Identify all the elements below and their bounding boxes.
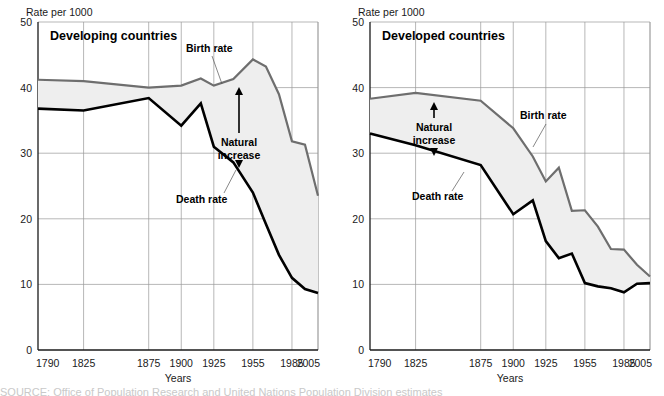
death-rate-leader-line (452, 172, 464, 191)
y-axis-caption: Rate per 1000 (26, 6, 93, 18)
panel-title: Developing countries (50, 29, 177, 43)
y-tick-label: 10 (20, 278, 32, 290)
x-tick-label: 1900 (502, 357, 526, 369)
natural-increase-label-line: increase (218, 149, 261, 161)
x-tick-label: 2005 (297, 357, 321, 369)
y-axis-caption: Rate per 1000 (358, 6, 425, 18)
x-tick-label: 1925 (534, 357, 558, 369)
x-tick-label: 1875 (137, 357, 161, 369)
natural-increase-band (38, 59, 318, 293)
panel-title: Developed countries (382, 29, 505, 43)
y-tick-label: 30 (20, 147, 32, 159)
death-rate-label: Death rate (176, 193, 228, 205)
y-tick-label: 30 (352, 147, 364, 159)
natural-increase-label: Naturalincrease (218, 136, 261, 161)
natural-increase-label-line: Natural (416, 121, 452, 133)
x-tick-label: 1875 (469, 357, 493, 369)
birth-rate-leader-line (533, 124, 546, 147)
y-tick-label: 20 (20, 213, 32, 225)
natural-increase-label-line: increase (413, 134, 456, 146)
y-tick-label: 40 (20, 82, 32, 94)
x-tick-label: 1825 (404, 357, 428, 369)
chart-panel-developing: Rate per 1000010203040501790182518751900… (0, 0, 332, 396)
clipped-source-caption-text: SOURCE: Office of Population Research an… (0, 388, 664, 396)
y-tick-label: 0 (358, 344, 364, 356)
x-tick-label: 1790 (36, 357, 60, 369)
x-tick-label: 1955 (241, 357, 265, 369)
x-tick-label: 1955 (573, 357, 597, 369)
y-tick-label: 50 (352, 16, 364, 28)
birth-rate-label: Birth rate (186, 42, 233, 54)
developing-countries-chart: Rate per 1000010203040501790182518751900… (0, 0, 332, 396)
x-tick-label: 1790 (368, 357, 392, 369)
x-tick-label: 1925 (202, 357, 226, 369)
y-tick-label: 20 (352, 213, 364, 225)
y-tick-label: 10 (352, 278, 364, 290)
y-tick-label: 40 (352, 82, 364, 94)
natural-increase-label-line: Natural (221, 136, 257, 148)
chart-panel-developed: Rate per 1000010203040501790182518751900… (332, 0, 664, 396)
x-tick-label: 2005 (629, 357, 653, 369)
x-axis-caption: Years (497, 372, 523, 384)
x-tick-label: 1825 (72, 357, 96, 369)
x-axis-caption: Years (165, 372, 191, 384)
x-tick-label: 1900 (170, 357, 194, 369)
developed-countries-chart: Rate per 1000010203040501790182518751900… (332, 0, 664, 396)
y-tick-label: 0 (26, 344, 32, 356)
death-rate-leader-line (224, 170, 236, 193)
natural-increase-label: Naturalincrease (413, 121, 456, 146)
chart-figure: Rate per 1000010203040501790182518751900… (0, 0, 664, 396)
y-tick-label: 50 (20, 16, 32, 28)
birth-rate-label: Birth rate (520, 109, 567, 121)
death-rate-label: Death rate (412, 190, 464, 202)
clipped-source-caption: SOURCE: Office of Population Research an… (0, 388, 664, 396)
